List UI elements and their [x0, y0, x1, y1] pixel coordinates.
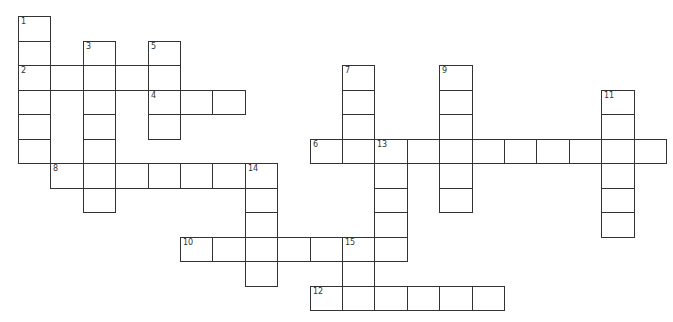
grid-cell[interactable]	[18, 114, 51, 140]
grid-cell[interactable]	[83, 188, 116, 213]
grid-cell[interactable]	[601, 212, 635, 238]
grid-cell[interactable]: 3	[83, 41, 116, 66]
grid-cell[interactable]	[148, 163, 181, 189]
grid-cell[interactable]	[212, 163, 246, 189]
grid-cell[interactable]	[342, 261, 375, 287]
grid-cell[interactable]: 4	[148, 90, 181, 115]
grid-cell[interactable]	[342, 114, 375, 140]
grid-cell[interactable]	[601, 139, 635, 164]
grid-cell[interactable]	[245, 212, 278, 238]
clue-number: 11	[604, 91, 614, 101]
grid-cell[interactable]	[601, 163, 635, 189]
grid-cell[interactable]	[439, 114, 473, 140]
clue-number: 4	[151, 91, 156, 101]
grid-cell[interactable]	[374, 237, 408, 262]
grid-cell[interactable]	[115, 65, 149, 91]
clue-number: 13	[377, 140, 387, 150]
grid-cell[interactable]	[374, 286, 408, 311]
grid-cell[interactable]: 14	[245, 163, 278, 189]
grid-cell[interactable]: 12	[310, 286, 343, 311]
grid-cell[interactable]	[439, 188, 473, 213]
grid-cell[interactable]	[439, 90, 473, 115]
grid-cell[interactable]	[83, 139, 116, 164]
clue-number: 7	[345, 66, 350, 76]
grid-cell[interactable]	[277, 237, 311, 262]
clue-number: 10	[183, 238, 193, 248]
grid-cell[interactable]	[439, 163, 473, 189]
grid-cell[interactable]	[504, 139, 537, 164]
grid-cell[interactable]	[407, 286, 440, 311]
grid-cell[interactable]: 2	[18, 65, 51, 91]
grid-cell[interactable]	[569, 139, 602, 164]
clue-number: 5	[151, 42, 156, 52]
grid-cell[interactable]	[472, 286, 505, 311]
grid-cell[interactable]	[439, 139, 473, 164]
grid-cell[interactable]	[342, 90, 375, 115]
grid-cell[interactable]	[83, 163, 116, 189]
grid-cell[interactable]	[439, 286, 473, 311]
grid-cell[interactable]	[245, 188, 278, 213]
grid-cell[interactable]	[342, 139, 375, 164]
grid-cell[interactable]	[342, 286, 375, 311]
clue-number: 3	[86, 42, 91, 52]
grid-cell[interactable]	[245, 261, 278, 287]
grid-cell[interactable]: 15	[342, 237, 375, 262]
grid-cell[interactable]	[180, 90, 213, 115]
clue-number: 6	[313, 140, 318, 150]
grid-cell[interactable]	[374, 188, 408, 213]
grid-cell[interactable]	[212, 90, 246, 115]
grid-cell[interactable]	[148, 114, 181, 140]
clue-number: 2	[21, 66, 26, 76]
grid-cell[interactable]	[180, 163, 213, 189]
grid-cell[interactable]: 8	[50, 163, 84, 189]
grid-cell[interactable]	[634, 139, 667, 164]
grid-cell[interactable]	[83, 114, 116, 140]
grid-cell[interactable]	[148, 65, 181, 91]
grid-cell[interactable]	[374, 212, 408, 238]
crossword-grid: 123456137814910151112	[0, 0, 673, 322]
clue-number: 14	[248, 164, 258, 174]
grid-cell[interactable]	[536, 139, 570, 164]
grid-cell[interactable]: 6	[310, 139, 343, 164]
grid-cell[interactable]	[407, 139, 440, 164]
grid-cell[interactable]: 10	[180, 237, 213, 262]
grid-cell[interactable]	[50, 65, 84, 91]
grid-cell[interactable]	[212, 237, 246, 262]
grid-cell[interactable]: 5	[148, 41, 181, 66]
grid-cell[interactable]	[310, 237, 343, 262]
grid-cell[interactable]: 7	[342, 65, 375, 91]
grid-cell[interactable]	[601, 114, 635, 140]
grid-cell[interactable]: 9	[439, 65, 473, 91]
clue-number: 12	[313, 287, 323, 297]
grid-cell[interactable]	[18, 90, 51, 115]
clue-number: 8	[53, 164, 58, 174]
grid-cell[interactable]: 13	[374, 139, 408, 164]
grid-cell[interactable]: 11	[601, 90, 635, 115]
clue-number: 9	[442, 66, 447, 76]
clue-number: 1	[21, 17, 26, 27]
grid-cell[interactable]: 1	[18, 16, 51, 42]
grid-cell[interactable]	[472, 139, 505, 164]
grid-cell[interactable]	[374, 163, 408, 189]
grid-cell[interactable]	[601, 188, 635, 213]
clue-number: 15	[345, 238, 355, 248]
grid-cell[interactable]	[18, 41, 51, 66]
grid-cell[interactable]	[83, 65, 116, 91]
grid-cell[interactable]	[18, 139, 51, 164]
grid-cell[interactable]	[115, 163, 149, 189]
grid-cell[interactable]	[83, 90, 116, 115]
grid-cell[interactable]	[245, 237, 278, 262]
